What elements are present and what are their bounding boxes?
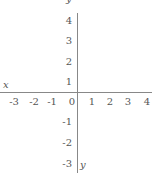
x-tick--3: -3 xyxy=(6,97,22,107)
x-axis-label: x xyxy=(3,80,9,90)
y-tick-3: 3 xyxy=(52,36,72,46)
y-axis-label: y xyxy=(80,160,86,170)
y-axis-line xyxy=(77,13,78,173)
y-tick--2: -2 xyxy=(52,138,72,148)
x-tick--2: -2 xyxy=(26,97,42,107)
x-axis-line xyxy=(0,92,152,93)
x-tick-0: 0 xyxy=(64,97,80,107)
x-tick--1: -1 xyxy=(44,97,60,107)
x-tick-3: 3 xyxy=(120,97,136,107)
y-tick-1: 1 xyxy=(52,77,72,87)
x-tick-2: 2 xyxy=(102,97,118,107)
y-tick-4: 4 xyxy=(52,16,72,26)
x-tick-1: 1 xyxy=(84,97,100,107)
y-tick--1: -1 xyxy=(52,117,72,127)
y-axis-top-label: y xyxy=(66,0,72,4)
x-tick-4: 4 xyxy=(139,97,152,107)
y-tick-2: 2 xyxy=(52,57,72,67)
y-tick--3: -3 xyxy=(52,159,72,169)
